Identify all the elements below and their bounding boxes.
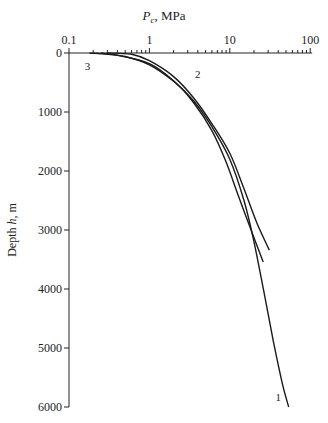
x-tick-label: 10: [224, 33, 236, 47]
svg-text:Depth h, m: Depth h, m: [5, 203, 19, 257]
chart: Pc, MPa Depth h, m 0.1110100 01000200030…: [0, 0, 328, 423]
curve-label-1: 1: [275, 391, 281, 403]
y-tick-label: 5000: [38, 341, 62, 355]
curve-label-2: 2: [195, 68, 201, 80]
x-tick-labels: 0.1110100: [62, 33, 320, 47]
x-axis-title: Pc, MPa: [141, 8, 185, 25]
x-tick-label: 0.1: [62, 33, 77, 47]
y-tick-label: 6000: [38, 400, 62, 414]
y-tick-label: 3000: [38, 223, 62, 237]
y-tick-label: 2000: [38, 164, 62, 178]
curve-2: [107, 53, 269, 250]
y-tick-label: 4000: [38, 282, 62, 296]
x-tick-label: 1: [146, 33, 152, 47]
y-tick-labels: 0100020003000400050006000: [38, 46, 62, 414]
y-axis-title: Depth h, m: [5, 203, 19, 257]
curves: [90, 53, 289, 407]
curve-label-3: 3: [85, 60, 91, 72]
svg-text:Pc, MPa: Pc, MPa: [141, 8, 185, 25]
y-tick-label: 0: [56, 46, 62, 60]
x-tick-label: 100: [301, 33, 319, 47]
axes: [64, 48, 312, 407]
y-tick-label: 1000: [38, 105, 62, 119]
